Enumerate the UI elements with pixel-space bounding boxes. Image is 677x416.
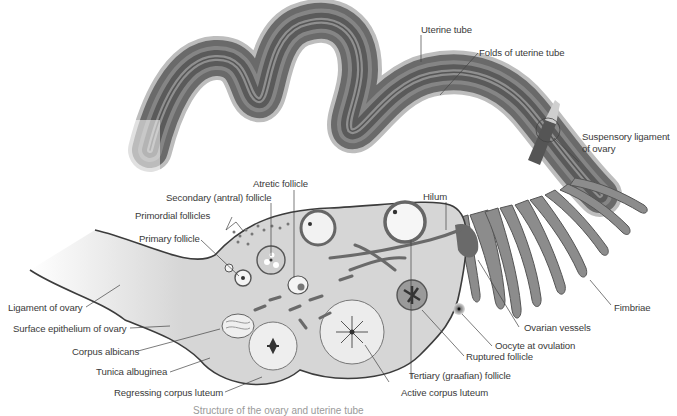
label-active-corpus-luteum: Active corpus luteum xyxy=(401,387,488,398)
label-uterine-tube: Uterine tube xyxy=(421,24,472,35)
label-primordial-follicles: Primordial follicles xyxy=(135,210,210,221)
label-primary-follicle: Primary follicle xyxy=(139,233,200,244)
label-regressing-corpus-luteum: Regressing corpus luteum xyxy=(114,387,223,398)
label-surface-epithelium: Surface epithelium of ovary xyxy=(13,323,127,334)
label-oocyte-at-ovulation: Oocyte at ovulation xyxy=(495,340,575,351)
label-folds-of-uterine-tube: Folds of uterine tube xyxy=(479,47,564,58)
label-hilum: Hilum xyxy=(423,191,447,202)
label-suspensory-ligament-line1: Suspensory ligament xyxy=(582,131,670,142)
label-atretic-follicle: Atretic follicle xyxy=(253,178,308,189)
label-suspensory-ligament-line2: of ovary xyxy=(582,143,615,154)
label-tunica-albuginea: Tunica albuginea xyxy=(96,366,167,377)
label-corpus-albicans: Corpus albicans xyxy=(72,346,139,357)
figure-caption: Structure of the ovary and uterine tube xyxy=(193,405,364,416)
label-fimbriae: Fimbriae xyxy=(614,302,651,313)
label-ligament-of-ovary: Ligament of ovary xyxy=(8,302,83,313)
fimbriae-shape xyxy=(458,178,647,318)
label-tertiary-follicle: Tertiary (graafian) follicle xyxy=(409,370,511,381)
label-ruptured-follicle: Ruptured follicle xyxy=(466,351,533,362)
label-ovarian-vessels: Ovarian vessels xyxy=(524,322,591,333)
label-secondary-follicle: Secondary (antral) follicle xyxy=(166,192,272,203)
